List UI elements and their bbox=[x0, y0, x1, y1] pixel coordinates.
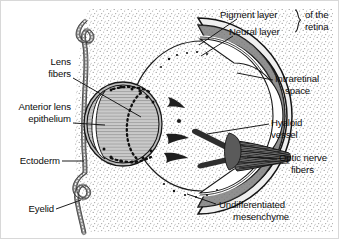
label-anterior-lens-epithelium-line1: Anterior lens bbox=[3, 101, 71, 112]
label-lens-fibers-line1: Lens bbox=[19, 56, 71, 67]
label-hyaloid-vessel-line1: Hyaloid bbox=[271, 117, 302, 128]
label-ectoderm: Ectoderm bbox=[4, 155, 60, 166]
label-undifferentiated-mesenchyme-line2: mesenchyme bbox=[233, 211, 289, 222]
label-hyaloid-vessel-line2: vessel bbox=[271, 129, 298, 140]
label-lens-fibers-line2: fibers bbox=[19, 68, 71, 79]
label-retina-group-line1: of the bbox=[305, 9, 328, 20]
label-neural-layer: Neural layer bbox=[229, 26, 280, 37]
label-anterior-lens-epithelium-line2: epithelium bbox=[3, 113, 71, 124]
label-optic-nerve-fibers-line1: Optic nerve bbox=[279, 152, 327, 163]
label-optic-nerve-fibers-line2: fibers bbox=[291, 164, 314, 175]
label-intraretinal-space-line1: Intraretinal bbox=[275, 73, 319, 84]
label-undifferentiated-mesenchyme-line1: Undifferentiated bbox=[219, 199, 285, 210]
label-intraretinal-space-line2: space bbox=[285, 85, 310, 96]
label-eyelid: Eyelid bbox=[4, 203, 54, 214]
label-pigment-layer: Pigment layer bbox=[220, 9, 277, 20]
eye-development-diagram: Pigment layer Neural layer of the retina… bbox=[0, 0, 339, 239]
label-retina-group-line2: retina bbox=[305, 21, 328, 32]
